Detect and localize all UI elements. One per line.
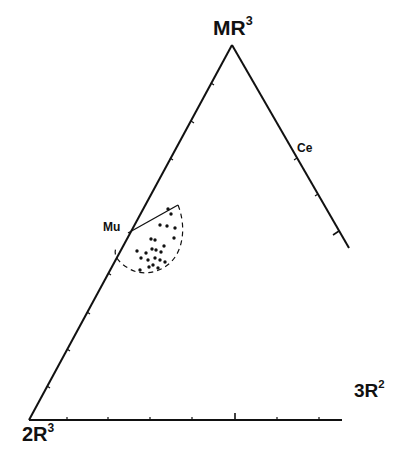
vertex-label-bottom-right-text: 3R xyxy=(354,380,378,401)
vertex-label-bottom-right: 3R2 xyxy=(354,381,385,400)
vertex-label-bottom-left: 2R3 xyxy=(22,424,54,444)
vertex-label-top-text: MR xyxy=(213,16,246,39)
label-ce: Ce xyxy=(297,142,312,154)
vertex-label-bottom-left-sup: 3 xyxy=(48,421,55,435)
vertex-label-bottom-right-sup: 2 xyxy=(378,378,384,390)
vertex-label-top-sup: 3 xyxy=(246,14,253,28)
vertex-label-top: MR3 xyxy=(213,17,253,38)
field-boundary-dashed xyxy=(115,205,183,273)
mu-tie-line xyxy=(128,205,178,233)
vertex-label-bottom-left-text: 2R xyxy=(22,423,48,445)
right-ticks xyxy=(294,158,339,235)
edge-right xyxy=(232,45,349,248)
edge-left xyxy=(29,45,232,420)
label-mu: Mu xyxy=(103,221,120,233)
ternary-diagram xyxy=(0,0,405,466)
bottom-ticks xyxy=(67,413,319,420)
